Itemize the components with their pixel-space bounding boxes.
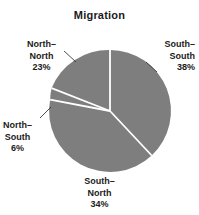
- pie-label-north-south: North– South 6%: [3, 120, 32, 155]
- pie-chart-figure: Migration South– South 3: [0, 0, 199, 215]
- pie-label-south-north-percent: 34%: [0, 199, 199, 211]
- pie-label-south-south-line2: South: [165, 51, 196, 63]
- pie-label-north-south-line2: South: [3, 132, 32, 144]
- pie-label-south-south-percent: 38%: [165, 62, 196, 74]
- pie-label-south-south-line1: South–: [165, 39, 196, 51]
- pie-label-south-north: South– North 34%: [0, 176, 199, 211]
- pie-label-north-south-line1: North–: [3, 120, 32, 132]
- pie-label-north-north-line2: North: [27, 51, 56, 63]
- leader-line-north-north: [64, 51, 76, 62]
- pie-label-north-south-percent: 6%: [3, 143, 32, 155]
- pie-label-south-north-line1: South–: [0, 176, 199, 188]
- pie-label-south-north-line2: North: [0, 188, 199, 200]
- pie-label-north-north: North– North 23%: [27, 39, 56, 74]
- pie-label-north-north-percent: 23%: [27, 62, 56, 74]
- pie-label-south-south: South– South 38%: [165, 39, 196, 74]
- pie-label-north-north-line1: North–: [27, 39, 56, 51]
